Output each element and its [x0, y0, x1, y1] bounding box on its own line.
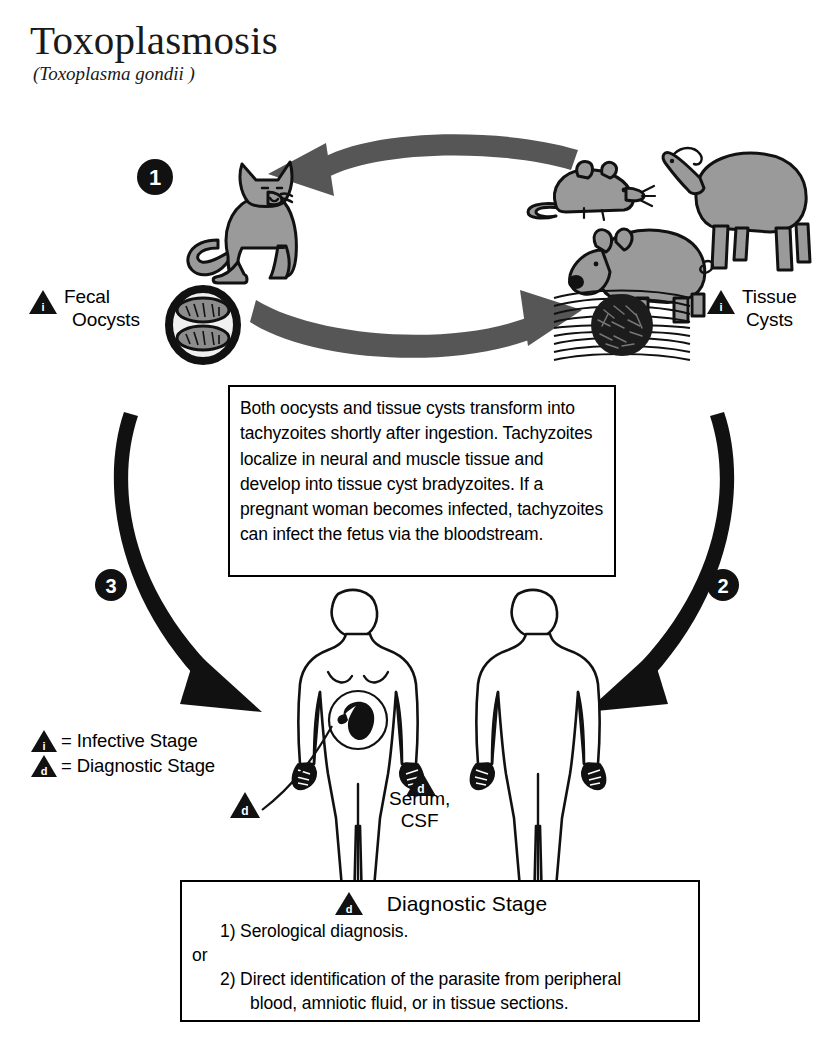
toxoplasmosis-lifecycle-diagram: Toxoplasmosis (Toxoplasma gondii ) 1 — [0, 0, 834, 1048]
svg-text:3: 3 — [105, 575, 116, 597]
diagnostic-or: or — [192, 943, 688, 967]
stage-legend: i = Infective Stage d = Diagnostic Stage — [30, 728, 215, 778]
legend-label-diagnostic: = Diagnostic Stage — [61, 755, 215, 777]
svg-text:i: i — [43, 740, 46, 752]
svg-text:1: 1 — [149, 165, 161, 190]
svg-text:d: d — [345, 903, 352, 915]
diagnostic-stage-box: d Diagnostic Stage 1) Serological diagno… — [180, 880, 700, 1022]
tissue-cysts-label: Tissue Cysts — [742, 285, 797, 331]
arrow-oocyst-to-human — [110, 412, 290, 732]
infective-stage-triangle-icon: i — [706, 289, 736, 315]
step-number-3: 3 — [94, 568, 128, 602]
scientific-name: (Toxoplasma gondii ) — [33, 63, 278, 85]
svg-text:i: i — [41, 301, 44, 313]
pregnant-woman-figure — [276, 588, 436, 918]
svg-text:d: d — [41, 765, 48, 777]
infective-stage-triangle-icon: i — [30, 729, 58, 753]
diagnostic-stage-triangle-icon: d — [333, 890, 365, 917]
legend-row-infective: i = Infective Stage — [30, 728, 215, 753]
fecal-oocysts-label: Fecal Oocysts — [64, 285, 140, 331]
step-number-1: 1 — [136, 158, 174, 196]
diagnostic-stage-triangle-icon: d — [30, 754, 58, 778]
diagnostic-stage-triangle-icon: d — [228, 790, 262, 820]
cat-illustration — [182, 136, 332, 296]
legend-label-infective: = Infective Stage — [61, 730, 198, 752]
diagnostic-stage-heading: Diagnostic Stage — [387, 892, 547, 916]
svg-text:i: i — [719, 301, 722, 313]
oocyst-illustration — [160, 286, 246, 364]
infective-stage-triangle-icon: i — [28, 289, 58, 315]
legend-row-diagnostic: d = Diagnostic Stage — [30, 753, 215, 778]
svg-text:d: d — [241, 804, 248, 818]
man-figure — [456, 588, 616, 918]
serum-csf-label: Serum, CSF — [389, 788, 450, 832]
diagnostic-marker-fetus: d — [228, 790, 262, 820]
svg-text:2: 2 — [717, 575, 728, 597]
diagnostic-item-2-line1: 2) Direct identification of the parasite… — [220, 967, 688, 991]
title-block: Toxoplasmosis (Toxoplasma gondii ) — [30, 18, 278, 85]
step-number-2: 2 — [706, 568, 740, 602]
page-title: Toxoplasmosis — [30, 18, 278, 62]
diagnostic-item-2-line2: blood, amniotic fluid, or in tissue sect… — [250, 991, 688, 1015]
lifecycle-description-text: Both oocysts and tissue cysts transform … — [240, 396, 606, 548]
diagnostic-stage-heading-row: d Diagnostic Stage — [192, 890, 688, 917]
diagnostic-item-1: 1) Serological diagnosis. — [220, 919, 688, 943]
tissue-cyst-illustration — [552, 284, 692, 366]
